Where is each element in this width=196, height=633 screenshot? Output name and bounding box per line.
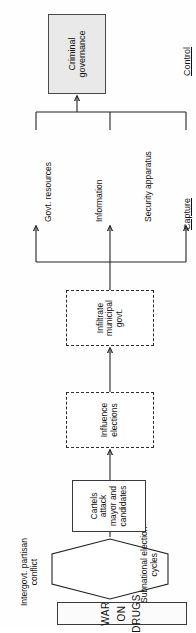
- section-header-capture: Capture: [182, 198, 192, 230]
- capture-outcome-information: Information: [95, 179, 104, 222]
- cartels-attack-line3: candidates: [119, 483, 129, 529]
- hexagon-label-bottom: Subnational election cycles: [140, 526, 159, 603]
- war-on-drugs-node: WAR ON DRUGS: [57, 602, 187, 625]
- cartels-attack-line1: Cartels attack: [90, 483, 109, 529]
- criminal-governance-line1: Criminal: [67, 30, 77, 77]
- capture-outcome-security-apparatus: Security apparatus: [144, 151, 153, 222]
- war-on-drugs-line1: WAR: [101, 601, 111, 625]
- criminal-governance-node: Criminal governance: [48, 14, 106, 94]
- criminal-governance-line2: governance: [77, 30, 87, 77]
- capture-outcome-govt-resources: Govt. resources: [44, 162, 53, 222]
- infiltrate-municipal-govt-node: Infiltrate municipal govt.: [66, 290, 154, 346]
- hexagon-label-bottom-line2: cycles: [150, 526, 160, 603]
- section-header-control: Control: [182, 47, 192, 76]
- hexagon-label-top-line2: conflict: [30, 538, 40, 606]
- war-on-drugs-line2: ON: [117, 606, 127, 622]
- hexagon-label-top: Intergovt. partisan conflict: [20, 538, 39, 606]
- influence-elections-node: Influence elections: [66, 392, 154, 448]
- influence-elections-line2: elections: [110, 403, 120, 438]
- infiltrate-line3: govt.: [115, 300, 125, 336]
- cartels-attack-node: Cartels attack mayor and candidates: [72, 480, 146, 532]
